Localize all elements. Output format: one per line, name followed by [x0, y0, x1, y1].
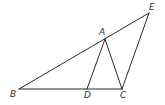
label-c: C [120, 90, 127, 100]
segment-ad [87, 39, 105, 89]
label-b: B [10, 89, 16, 99]
label-d: D [84, 90, 91, 100]
label-e: E [149, 2, 155, 12]
segment-ce [122, 13, 149, 89]
label-a: A [98, 27, 105, 37]
segment-be [19, 13, 149, 89]
geometry-diagram: A B C D E [0, 0, 165, 105]
segment-ac [105, 39, 122, 89]
